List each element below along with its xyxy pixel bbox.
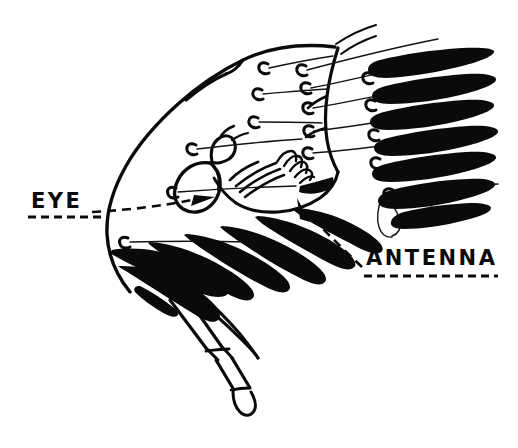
label-antenna: ANTENNA xyxy=(366,248,497,269)
eye xyxy=(175,163,221,212)
antennule xyxy=(134,286,258,415)
crustacean-drawing xyxy=(0,0,518,448)
pleopods-right xyxy=(368,48,498,229)
label-eye: EYE xyxy=(31,191,82,212)
appendage-bases xyxy=(119,63,394,248)
illustration-figure: EYE ANTENNA xyxy=(0,0,518,448)
